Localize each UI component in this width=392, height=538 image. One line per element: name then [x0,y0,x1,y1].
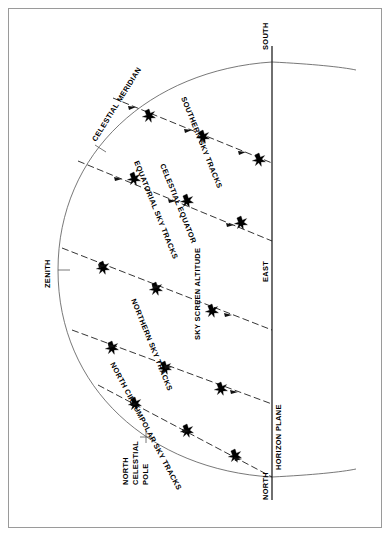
label-celestial-meridian: CELESTIAL MERIDIAN [90,66,143,144]
star-marker [149,282,162,295]
celestial-meridian-dome-curve [58,62,272,477]
horizon-plane-arc-lower [272,469,356,477]
celestial-sphere-diagram: SOUTH EAST NORTH HORIZON PLANE ZENITH CE… [0,0,392,538]
arrow-head [238,151,246,155]
label-southern-sky-tracks: SOUTHERN SKY TRACKS [179,95,224,189]
star-marker [105,341,118,354]
track-line-sky-screen-altitude [62,248,272,330]
label-sky-screen-altitude: SKY SCREEN ALTITUDE [193,248,202,340]
label-zenith: ZENITH [43,259,52,288]
horizon-plane-arc [272,62,356,70]
label-north: NORTH [261,472,270,500]
label-equatorial-sky-tracks: EQUATORIAL SKY TRACKS [132,159,180,260]
label-north-celestial-pole-line2: CELESTIAL [131,441,140,485]
star-marker [205,304,218,317]
label-east: EAST [261,261,270,282]
star-marker [234,216,247,229]
label-northern-sky-tracks: NORTHERN SKY TRACKS [129,297,174,392]
star-marker [214,382,227,395]
figure-root: SOUTH EAST NORTH HORIZON PLANE ZENITH CE… [0,0,392,538]
label-horizon-plane: HORIZON PLANE [274,404,283,470]
track-sky-screen-altitude [62,248,272,330]
label-south: SOUTH [261,22,270,50]
track-northern-sky [72,330,272,404]
star-marker [252,153,265,166]
label-north-celestial-pole-line1: NORTH [121,457,130,485]
label-north-celestial-pole-line3: POLE [141,463,150,485]
star-marker [96,261,109,274]
celestial-meridian-tick [95,145,106,152]
arrow-head [224,313,232,317]
